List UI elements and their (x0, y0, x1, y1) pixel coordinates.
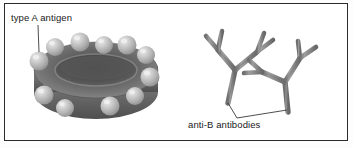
antigen-sphere (46, 38, 64, 56)
anti-b-antibody-1 (206, 31, 273, 103)
antigen-leader-line (38, 25, 39, 52)
antigen-sphere (30, 52, 49, 71)
label-anti-b-antibodies: anti-B antibodies (188, 120, 260, 130)
antigen-sphere (137, 46, 155, 64)
antigen-sphere (101, 97, 120, 116)
antigen-sphere (141, 68, 160, 87)
antigen-sphere (118, 36, 137, 55)
antigen-sphere (71, 33, 90, 52)
label-type-a-antigen: type A antigen (11, 13, 72, 23)
antigen-sphere (126, 87, 144, 105)
antigen-sphere (35, 86, 54, 105)
antibody-leader-lines (228, 103, 287, 118)
figure-container: type A antigen anti-B antibodies (0, 0, 353, 148)
antigen-sphere (56, 99, 74, 117)
antigen-sphere (95, 36, 113, 54)
